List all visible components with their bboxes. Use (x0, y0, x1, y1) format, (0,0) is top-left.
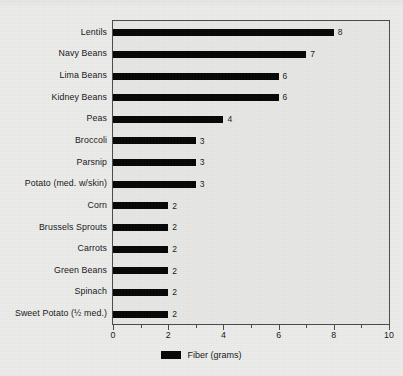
bar-row: 4 (113, 108, 389, 131)
bar-value-label: 6 (283, 72, 288, 81)
bar (113, 202, 168, 209)
bar-value-label: 2 (172, 202, 177, 211)
x-axis-tick-label: 0 (111, 330, 116, 340)
y-axis-label: Peas (87, 107, 107, 130)
y-axis-label: Lima Beans (60, 63, 107, 86)
bar-value-label: 4 (227, 115, 232, 124)
bar (113, 159, 196, 166)
x-axis-tick-label: 8 (331, 330, 336, 340)
x-axis-minor-tick (306, 325, 307, 328)
bar (113, 137, 196, 144)
bar-row: 8 (113, 21, 389, 44)
y-axis-label: Kidney Beans (52, 85, 108, 108)
bar-value-label: 2 (172, 267, 177, 276)
bar (113, 29, 334, 36)
bar-value-label: 2 (172, 310, 177, 319)
x-axis-tick-label: 2 (166, 330, 171, 340)
bar (113, 73, 279, 80)
x-axis-tick-label: 4 (221, 330, 226, 340)
y-axis-label: Lentils (81, 20, 107, 43)
y-axis-label: Brussels Sprouts (39, 215, 107, 238)
bar (113, 94, 279, 101)
bar (113, 116, 223, 123)
y-axis-label: Carrots (77, 236, 107, 259)
bar-row: 2 (113, 259, 389, 282)
bar-row: 6 (113, 64, 389, 87)
cropped-title-strip (0, 0, 403, 7)
bar (113, 51, 306, 58)
bar-row: 2 (113, 216, 389, 239)
bar (113, 181, 196, 188)
y-axis-label: Sweet Potato (½ med.) (15, 301, 107, 324)
x-axis-minor-tick (251, 325, 252, 328)
bar-row: 7 (113, 43, 389, 66)
y-axis-label: Navy Beans (59, 42, 107, 65)
legend-swatch-fiber (161, 351, 181, 359)
y-axis-category-labels: LentilsNavy BeansLima BeansKidney BeansP… (0, 20, 107, 325)
bar (113, 224, 168, 231)
bar-row: 3 (113, 129, 389, 152)
y-axis-label: Corn (88, 193, 107, 216)
x-axis-minor-tick (141, 325, 142, 328)
x-axis-tick-label: 10 (384, 330, 394, 340)
y-axis-label: Spinach (75, 280, 108, 303)
y-axis-label: Parsnip (76, 150, 107, 173)
y-axis-label: Broccoli (75, 128, 107, 151)
bar-row: 6 (113, 86, 389, 109)
bar-rows: 87664333222222 (113, 21, 389, 324)
x-axis-tick-labels: 0246810 (112, 330, 390, 342)
bar-row: 2 (113, 237, 389, 260)
bar-value-label: 2 (172, 223, 177, 232)
bar-value-label: 3 (200, 158, 205, 167)
bar-value-label: 6 (283, 93, 288, 102)
bar-value-label: 3 (200, 137, 205, 146)
y-axis-label: Green Beans (54, 258, 107, 281)
bar-row: 2 (113, 281, 389, 304)
bar-value-label: 7 (310, 50, 315, 59)
bar (113, 311, 168, 318)
bar-row: 2 (113, 194, 389, 217)
chart-legend: Fiber (grams) (0, 350, 403, 360)
bar-value-label: 3 (200, 180, 205, 189)
y-axis-label: Potato (med. w/skin) (25, 172, 107, 195)
bar-row: 3 (113, 151, 389, 174)
legend-label-fiber: Fiber (grams) (187, 350, 241, 360)
x-axis-minor-tick (196, 325, 197, 328)
bar (113, 289, 168, 296)
bar-value-label: 8 (338, 28, 343, 37)
bar-row: 2 (113, 302, 389, 325)
bar (113, 246, 168, 253)
plot-area: 87664333222222 (112, 20, 390, 325)
bar-row: 3 (113, 173, 389, 196)
bar (113, 267, 168, 274)
bar-value-label: 2 (172, 245, 177, 254)
fiber-bar-chart-figure: LentilsNavy BeansLima BeansKidney BeansP… (0, 0, 403, 376)
x-axis-minor-tick (361, 325, 362, 328)
bar-value-label: 2 (172, 288, 177, 297)
x-axis-tick-label: 6 (276, 330, 281, 340)
